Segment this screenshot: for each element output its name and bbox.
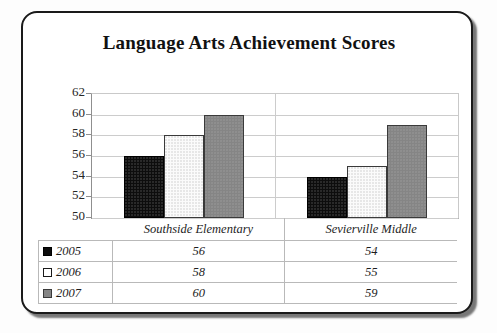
bar-2006-sevierville-middle (347, 166, 387, 218)
chart-frame: Language Arts Achievement Scores 5052545… (21, 11, 473, 314)
table-cell-2005-southside-elementary: 56 (113, 241, 285, 262)
table-header-row: Southside ElementarySevierville Middle (39, 218, 458, 241)
legend-item-2005[interactable]: 2005 (39, 241, 113, 262)
table-cell-2005-sevierville-middle: 54 (285, 241, 457, 262)
plot-area (91, 93, 459, 219)
y-axis-tick-mark (86, 114, 91, 115)
legend-item-2007[interactable]: 2007 (39, 283, 113, 304)
table-cell-2006-southside-elementary: 58 (113, 262, 285, 283)
legend-swatch-icon-2005 (43, 247, 52, 256)
y-axis-tick-mark (86, 196, 91, 197)
legend-item-2006[interactable]: 2006 (39, 262, 113, 283)
y-axis-tick-mark (86, 176, 91, 177)
y-axis-tick-label: 52 (51, 187, 85, 203)
y-axis-tick-mark (86, 155, 91, 156)
legend-swatch-icon-2007 (43, 289, 52, 298)
table-header-blank (39, 218, 113, 241)
y-axis-tick-mark (86, 134, 91, 135)
category-separator (275, 94, 276, 218)
y-axis-tick-label: 62 (51, 84, 85, 100)
table-header-southside-elementary: Southside Elementary (113, 218, 285, 241)
y-axis-tick-mark (86, 93, 91, 94)
table-row: 20065855 (39, 262, 458, 283)
bar-2007-southside-elementary (204, 115, 244, 218)
table-row: 20055654 (39, 241, 458, 262)
chart-screenshot: Language Arts Achievement Scores 5052545… (0, 0, 497, 333)
bar-2007-sevierville-middle (387, 125, 427, 218)
legend-label-2005: 2005 (56, 244, 81, 258)
bar-2006-southside-elementary (164, 135, 204, 218)
table-cell-2006-sevierville-middle: 55 (285, 262, 457, 283)
legend-label-2007: 2007 (56, 286, 81, 300)
bar-2005-southside-elementary (124, 156, 164, 218)
table-cell-2007-sevierville-middle: 59 (285, 283, 457, 304)
y-axis-tick-label: 56 (51, 146, 85, 162)
y-axis-tick-label: 60 (51, 105, 85, 121)
legend-swatch-icon-2006 (43, 268, 52, 277)
y-axis-tick-label: 58 (51, 125, 85, 141)
table-row: 20076059 (39, 283, 458, 304)
table-cell-2007-southside-elementary: 60 (113, 283, 285, 304)
data-table: Southside ElementarySevierville Middle20… (38, 218, 457, 313)
legend-label-2006: 2006 (56, 265, 81, 279)
y-axis-tick-label: 54 (51, 167, 85, 183)
bar-2005-sevierville-middle (307, 177, 347, 218)
table-header-sevierville-middle: Sevierville Middle (285, 218, 457, 241)
